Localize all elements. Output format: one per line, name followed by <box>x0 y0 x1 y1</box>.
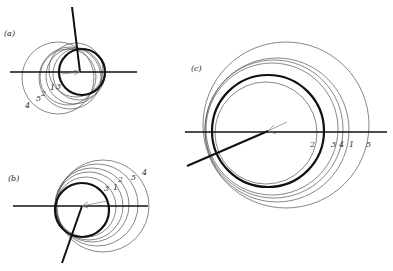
label-a-4: 4 <box>24 101 30 110</box>
label-a-3: 3 <box>56 82 61 91</box>
ray-a <box>72 7 80 72</box>
label-c-5: 5 <box>366 140 371 149</box>
ray-c <box>187 131 268 166</box>
label-c-1: 1 <box>349 140 354 149</box>
circle-c-2 <box>215 82 317 184</box>
label-a-2: 2 <box>40 89 46 98</box>
label-a-1: 1 <box>50 83 55 92</box>
panel-c: (c) 2 3 4 1 5 <box>185 42 387 208</box>
label-b-5: 5 <box>131 173 136 182</box>
label-b-3: 3 <box>104 184 109 193</box>
circle-a-5 <box>40 49 96 105</box>
figure: (a) 4 5 2 1 3 (b) 3 1 2 5 4 (c) <box>0 0 393 271</box>
ray-b <box>62 206 82 263</box>
pointer-c <box>268 122 287 131</box>
label-b-4: 4 <box>141 168 147 177</box>
circle-a-2 <box>39 47 101 109</box>
panel-b: (b) 3 1 2 5 4 <box>8 160 149 263</box>
label-b-1: 1 <box>113 183 118 192</box>
panel-label-b: (b) <box>8 174 19 183</box>
circle-c-4 <box>205 60 343 198</box>
panel-label-a: (a) <box>4 29 15 38</box>
bold-circle-b <box>55 183 109 237</box>
label-b-2: 2 <box>117 175 123 184</box>
panel-label-c: (c) <box>191 64 202 73</box>
circle-c-1 <box>205 58 349 202</box>
panel-a: (a) 4 5 2 1 3 <box>4 7 137 114</box>
label-c-4: 4 <box>338 140 344 149</box>
label-c-3: 3 <box>331 140 336 149</box>
label-c-2: 2 <box>309 140 315 149</box>
